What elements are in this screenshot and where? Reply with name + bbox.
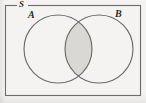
venn-diagram-graphic bbox=[0, 0, 146, 103]
set-b-label: B bbox=[115, 9, 122, 19]
set-a-label: A bbox=[28, 10, 35, 20]
venn-diagram-figure: S A B bbox=[0, 0, 146, 103]
universal-set-label: S bbox=[19, 0, 24, 9]
